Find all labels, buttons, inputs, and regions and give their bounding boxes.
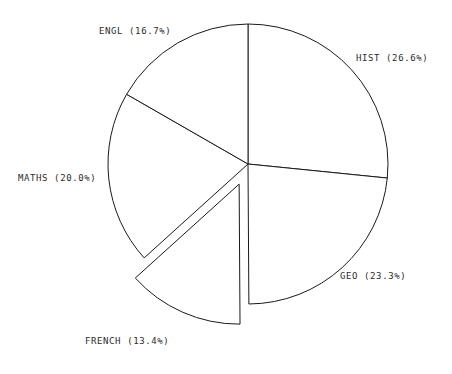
pie-slice-geo[interactable] — [248, 164, 387, 304]
pie-label-maths: MATHS (20.0%) — [18, 174, 96, 183]
pie-label-french: FRENCH (13.4%) — [85, 337, 169, 346]
pie-chart: HIST (26.6%) GEO (23.3%) FRENCH (13.4%) … — [0, 0, 452, 374]
pie-slice-hist[interactable] — [248, 24, 388, 178]
pie-label-engl: ENGL (16.7%) — [99, 27, 171, 36]
pie-label-geo: GEO (23.3%) — [340, 272, 406, 281]
pie-label-hist: HIST (26.6%) — [356, 54, 428, 63]
